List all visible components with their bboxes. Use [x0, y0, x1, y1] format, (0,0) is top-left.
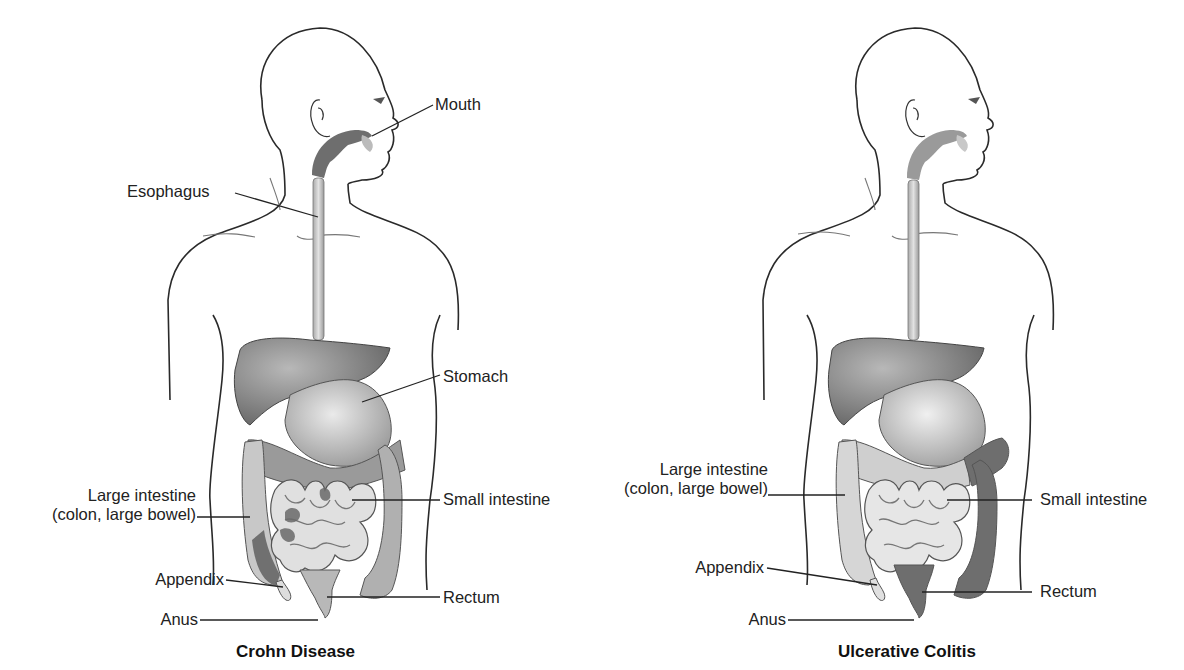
label-large-intestine: Large intestine (colon, large bowel)	[576, 460, 768, 498]
rectum	[300, 570, 340, 618]
label-large-intestine-line2: (colon, large bowel)	[576, 479, 768, 498]
label-mouth: Mouth	[435, 95, 481, 114]
label-small-intestine: Small intestine	[1040, 490, 1147, 509]
label-large-intestine-line1: Large intestine	[576, 460, 768, 479]
eye	[968, 97, 980, 104]
label-large-intestine-line1: Large intestine	[14, 486, 196, 505]
label-appendix: Appendix	[632, 558, 764, 577]
appendix	[276, 580, 291, 601]
label-esophagus: Esophagus	[127, 182, 210, 201]
esophagus	[908, 180, 919, 340]
label-large-intestine-line2: (colon, large bowel)	[14, 505, 196, 524]
label-anus: Anus	[96, 610, 198, 629]
label-appendix: Appendix	[96, 570, 224, 589]
appendix	[870, 578, 885, 601]
label-stomach: Stomach	[443, 367, 508, 386]
label-rectum: Rectum	[1040, 582, 1097, 601]
stomach	[285, 380, 391, 467]
ulcerative-colitis-figure: Large intestine (colon, large bowel) Sma…	[592, 0, 1184, 670]
ear	[906, 100, 925, 137]
label-large-intestine: Large intestine (colon, large bowel)	[14, 486, 196, 524]
crohn-anatomy-illustration	[0, 0, 592, 670]
caption-ulcerative-colitis: Ulcerative Colitis	[838, 642, 976, 662]
label-anus: Anus	[652, 610, 786, 629]
label-rectum: Rectum	[443, 588, 500, 607]
crohn-disease-figure: Mouth Esophagus Stomach Large intestine …	[0, 0, 592, 670]
eye	[373, 97, 385, 104]
stomach	[879, 380, 985, 467]
ear	[311, 100, 330, 137]
small-intestine	[865, 480, 970, 572]
label-small-intestine: Small intestine	[443, 490, 550, 509]
caption-crohn-disease: Crohn Disease	[236, 642, 355, 662]
esophagus	[313, 178, 324, 340]
